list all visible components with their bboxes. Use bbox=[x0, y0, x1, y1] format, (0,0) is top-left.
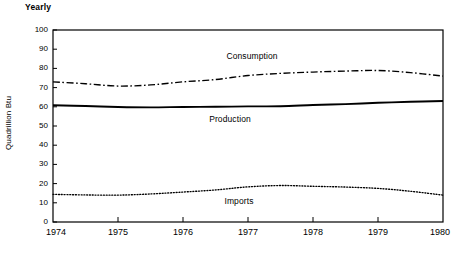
x-axis-tick-label: 1980 bbox=[420, 228, 460, 237]
y-axis-tick-label: 70 bbox=[22, 84, 48, 92]
energy-line-chart: Yearly Quadrillion Btu 01020304050607080… bbox=[0, 0, 467, 253]
y-axis-tick-label: 30 bbox=[22, 160, 48, 168]
series-label-imports: Imports bbox=[189, 197, 289, 206]
x-axis-tick-label: 1978 bbox=[293, 228, 333, 237]
y-axis-title: Quadrillion Btu bbox=[4, 96, 13, 150]
x-axis-tick-label: 1976 bbox=[163, 228, 203, 237]
y-axis-tick-label: 100 bbox=[22, 26, 48, 34]
series-label-consumption: Consumption bbox=[202, 52, 302, 61]
x-axis-tick-label: 1979 bbox=[358, 228, 398, 237]
x-axis-tick-label: 1977 bbox=[228, 228, 268, 237]
series-line-consumption bbox=[53, 70, 443, 86]
y-axis-tick-label: 50 bbox=[22, 122, 48, 130]
chart-title: Yearly bbox=[25, 2, 51, 12]
series-line-imports bbox=[53, 186, 443, 196]
plot-area bbox=[0, 0, 467, 253]
y-axis-tick-label: 90 bbox=[22, 45, 48, 53]
y-axis-tick-label: 80 bbox=[22, 64, 48, 72]
y-axis-tick-label: 0 bbox=[22, 218, 48, 226]
x-axis-tick-label: 1974 bbox=[36, 228, 76, 237]
series-label-production: Production bbox=[180, 115, 280, 124]
y-axis-title-container: Quadrillion Btu bbox=[0, 30, 16, 215]
y-axis-tick-label: 10 bbox=[22, 199, 48, 207]
x-axis-tick-label: 1975 bbox=[98, 228, 138, 237]
series-line-production bbox=[53, 101, 443, 107]
y-axis-tick-label: 40 bbox=[22, 141, 48, 149]
y-axis-tick-label: 60 bbox=[22, 103, 48, 111]
y-axis-tick-label: 20 bbox=[22, 180, 48, 188]
